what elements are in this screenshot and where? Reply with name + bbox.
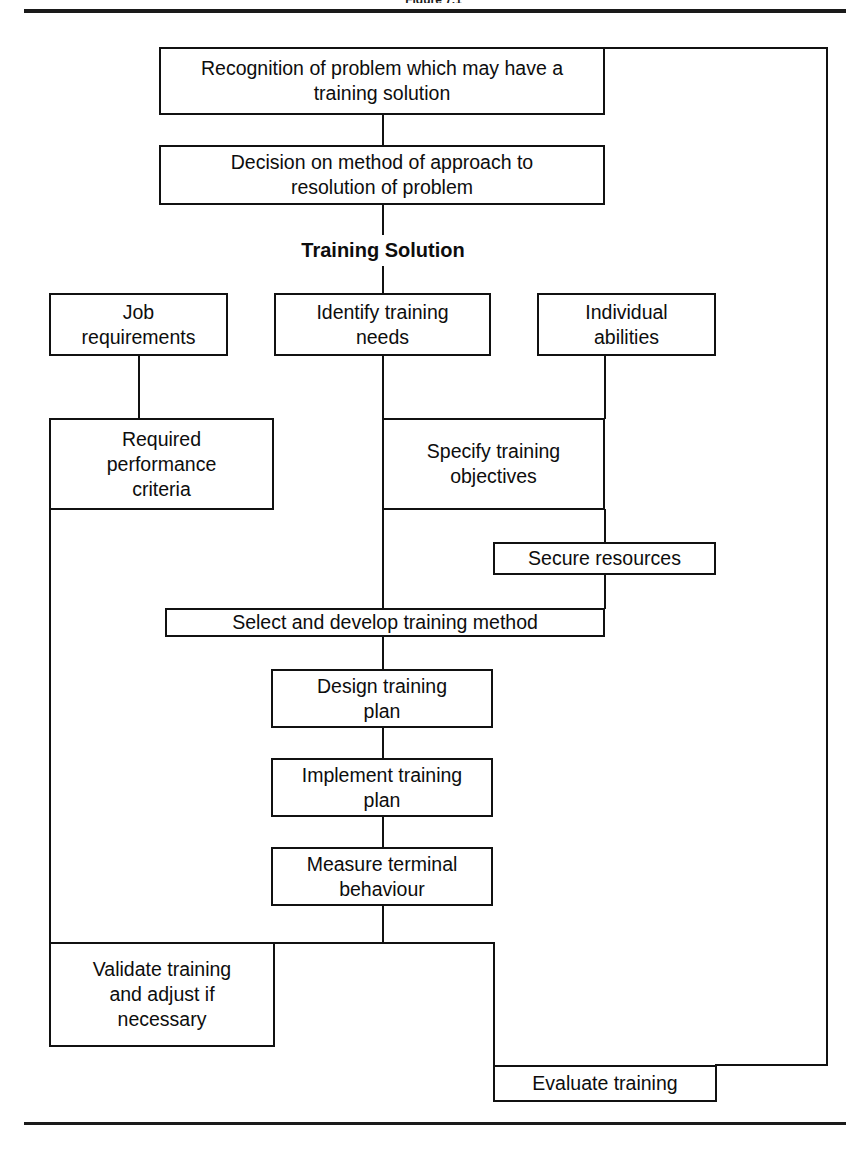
bottom-rule [24,1122,846,1125]
connector-job-requirements-to-required-performance [138,355,140,419]
figure-caption: Figure 7.1 [0,0,867,3]
connector-design-plan-to-implement-plan [382,727,384,759]
node-secure-resources[interactable]: Secure resources [493,542,716,575]
connector-select-method-to-design-plan [382,636,384,670]
connector-measure-behaviour-to-validate-junction [382,905,384,943]
node-individual-abilities[interactable]: Individual abilities [537,293,716,356]
node-job-requirements[interactable]: Job requirements [49,293,228,356]
node-select-and-develop-training-method[interactable]: Select and develop training method [165,608,605,637]
feedback-line-right-vertical [826,47,828,1066]
node-specify-training-objectives[interactable]: Specify training objectives [382,418,605,510]
feedback-line-top-horizontal [604,47,828,49]
node-evaluate-training[interactable]: Evaluate training [493,1065,717,1102]
node-measure-terminal-behaviour[interactable]: Measure terminal behaviour [271,847,493,906]
connector-decision-to-stage-label [382,203,384,235]
node-design-training-plan[interactable]: Design training plan [271,669,493,728]
connector-individual-abilities-to-specify-objectives [604,355,606,419]
connector-required-performance-left-rail [49,509,51,944]
node-identify-training-needs[interactable]: Identify training needs [274,293,491,356]
node-implement-training-plan[interactable]: Implement training plan [271,758,493,817]
connector-recognition-to-decision [382,114,384,146]
node-validate-training[interactable]: Validate training and adjust if necessar… [49,942,275,1047]
feedback-line-bottom-horizontal [715,1064,828,1066]
connector-secure-resources-to-select-method [604,574,606,609]
figure-page: Figure 7.1 Recognition of problem which … [0,0,867,1150]
node-decision-on-method[interactable]: Decision on method of approach to resolu… [159,145,605,205]
node-required-performance-criteria[interactable]: Required performance criteria [49,418,274,510]
connector-stage-label-to-identify-needs [382,266,384,294]
connector-junction-to-evaluate-training [493,942,495,1066]
node-recognition-of-problem[interactable]: Recognition of problem which may have a … [159,47,605,115]
stage-label-training-solution: Training Solution [253,235,513,265]
connector-implement-plan-to-measure-behaviour [382,816,384,848]
connector-specify-objectives-to-secure-resources [604,509,606,543]
top-rule [24,9,846,13]
connector-validate-junction-horizontal [274,942,495,944]
